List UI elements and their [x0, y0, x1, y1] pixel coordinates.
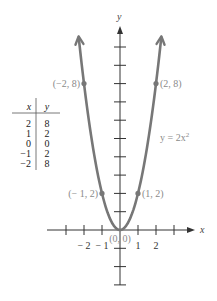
table-cell-y: 8: [45, 158, 50, 169]
y-axis-arrow-icon: [117, 26, 123, 34]
chart-svg: xy− 2− 112 (−2, 8)(2, 8)(− 1, 2)(1, 2)(0…: [0, 0, 217, 301]
table-header-y: y: [44, 101, 50, 112]
equation-exponent: 2: [186, 131, 190, 139]
x-tick-label: − 1: [95, 240, 108, 251]
y-axis-label: y: [116, 11, 122, 22]
data-points: (−2, 8)(2, 8)(− 1, 2)(1, 2)(0, 0): [53, 78, 182, 245]
equation-label: y = 2x2: [160, 131, 190, 143]
point-marker: [99, 191, 104, 196]
point-label: (−2, 8): [53, 78, 80, 90]
point-marker: [153, 81, 158, 86]
x-tick-label: 1: [136, 240, 141, 251]
parabola-chart: xy− 2− 112 (−2, 8)(2, 8)(− 1, 2)(1, 2)(0…: [0, 0, 217, 301]
table-header-x: x: [26, 101, 32, 112]
x-axis-arrow-icon: [187, 227, 195, 233]
x-axis-label: x: [199, 224, 205, 235]
point-label: (1, 2): [142, 188, 164, 200]
point-marker: [135, 191, 140, 196]
x-tick-label: 2: [154, 240, 159, 251]
point-marker: [81, 81, 86, 86]
table-cell-x: −2: [20, 158, 31, 169]
x-tick-label: − 2: [77, 240, 90, 251]
point-label: (0, 0): [109, 233, 131, 245]
value-table: xy281200−12−28: [12, 98, 60, 170]
point-label: (2, 8): [160, 78, 182, 90]
point-label: (− 1, 2): [68, 188, 98, 200]
equation-text: y = 2x: [160, 132, 186, 143]
